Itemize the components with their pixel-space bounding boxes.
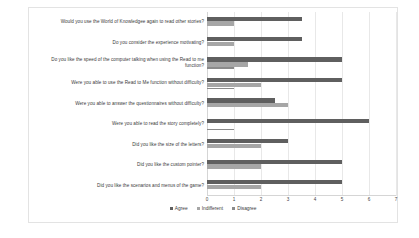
bar-indifferent — [207, 42, 234, 46]
bar-group — [207, 12, 396, 32]
bar-agree — [207, 119, 369, 123]
legend-swatch-icon — [232, 207, 235, 210]
bar-group — [207, 155, 396, 175]
bar-agree — [207, 78, 342, 82]
x-tick-label: 2 — [260, 197, 263, 202]
category-label: Were you able to answer the questionnair… — [31, 94, 207, 114]
x-tick-label: 3 — [287, 197, 290, 202]
chart-container: Would you use the World of Knowledgee ag… — [28, 7, 398, 223]
chart-legend: AgreeIndifferentDisagree — [29, 206, 397, 211]
bar-group — [207, 53, 396, 73]
legend-swatch-icon — [197, 207, 200, 210]
x-tick-label: 7 — [395, 197, 398, 202]
category-label: Do you consider the experience motivatin… — [31, 32, 207, 52]
bar-agree — [207, 160, 342, 164]
bar-indifferent — [207, 164, 261, 168]
bar-group — [207, 73, 396, 93]
bar-agree — [207, 180, 342, 184]
category-label: Do you like the speed of the computer ta… — [31, 53, 207, 73]
x-tick-label: 1 — [233, 197, 236, 202]
bar-disagree — [207, 129, 234, 131]
bar-agree — [207, 57, 342, 61]
bar-group — [207, 32, 396, 52]
bar-indifferent — [207, 185, 261, 189]
bar-group — [207, 114, 396, 134]
gridline — [396, 12, 397, 196]
category-label: Did you like the custom pointer? — [31, 155, 207, 175]
legend-item-disagree[interactable]: Disagree — [232, 206, 256, 211]
legend-label: Agree — [175, 206, 188, 211]
category-label: Were you able to use the Read to Me func… — [31, 73, 207, 93]
bar-group — [207, 135, 396, 155]
bar-disagree — [207, 67, 234, 69]
bar-groups — [207, 12, 396, 196]
bar-indifferent — [207, 144, 261, 148]
x-tick-label: 6 — [368, 197, 371, 202]
plot-area — [207, 12, 396, 196]
bar-agree — [207, 17, 302, 21]
bar-indifferent — [207, 103, 288, 107]
legend-swatch-icon — [170, 207, 173, 210]
bar-group — [207, 94, 396, 114]
bar-indifferent — [207, 83, 261, 87]
bar-disagree — [207, 88, 234, 90]
bar-indifferent — [207, 62, 248, 66]
legend-item-indifferent[interactable]: Indifferent — [197, 206, 223, 211]
x-tick-label: 0 — [206, 197, 209, 202]
bar-agree — [207, 98, 275, 102]
bar-group — [207, 176, 396, 196]
category-label: Would you use the World of Knowledgee ag… — [31, 12, 207, 32]
chart-plot-wrapper: Would you use the World of Knowledgee ag… — [29, 8, 397, 222]
category-label: Did you like the size of the letters? — [31, 135, 207, 155]
x-tick-label: 4 — [314, 197, 317, 202]
category-label: Did you like the scenarios and menus of … — [31, 176, 207, 196]
bar-agree — [207, 37, 302, 41]
legend-label: Indifferent — [202, 206, 223, 211]
bar-agree — [207, 139, 288, 143]
category-axis-labels: Would you use the World of Knowledgee ag… — [31, 12, 207, 196]
category-label: Were you able to read the story complete… — [31, 114, 207, 134]
bar-indifferent — [207, 21, 234, 25]
legend-label: Disagree — [237, 206, 256, 211]
x-tick-label: 5 — [341, 197, 344, 202]
legend-item-agree[interactable]: Agree — [170, 206, 188, 211]
